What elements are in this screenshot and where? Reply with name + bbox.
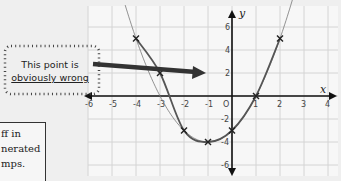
note-line-2: nerated [1,143,40,154]
callout-line-2: obviously wrong [4,71,96,84]
note-box: ff in nerated mps. [0,122,46,181]
note-line-3: mps. [1,158,25,169]
y-tick-label: 4 [225,46,230,55]
x-tick-label: 4 [325,100,330,109]
x-axis-label: x [320,83,327,96]
x-tick-label: -1 [205,100,213,109]
grid-background [88,6,338,176]
y-tick-label: 6 [225,23,230,32]
x-tick-label: 3 [301,100,306,109]
x-tick-label: -5 [109,100,117,109]
y-tick-label: 2 [225,69,230,78]
note-line-1: ff in [1,128,21,139]
x-tick-label: 2 [277,100,282,109]
x-tick-label: O [223,100,229,109]
y-tick-label: -6 [221,161,229,170]
callout-line-1: This point is [4,58,96,71]
y-tick-label: -4 [221,138,229,147]
callout: This point is obviously wrong [4,47,96,93]
y-tick-label: -2 [221,115,229,124]
x-tick-label: -4 [133,100,141,109]
x-tick-label: -6 [85,100,93,109]
x-tick-label: -2 [181,100,189,109]
x-tick-label: -3 [157,100,165,109]
y-axis-label: y [238,7,246,20]
